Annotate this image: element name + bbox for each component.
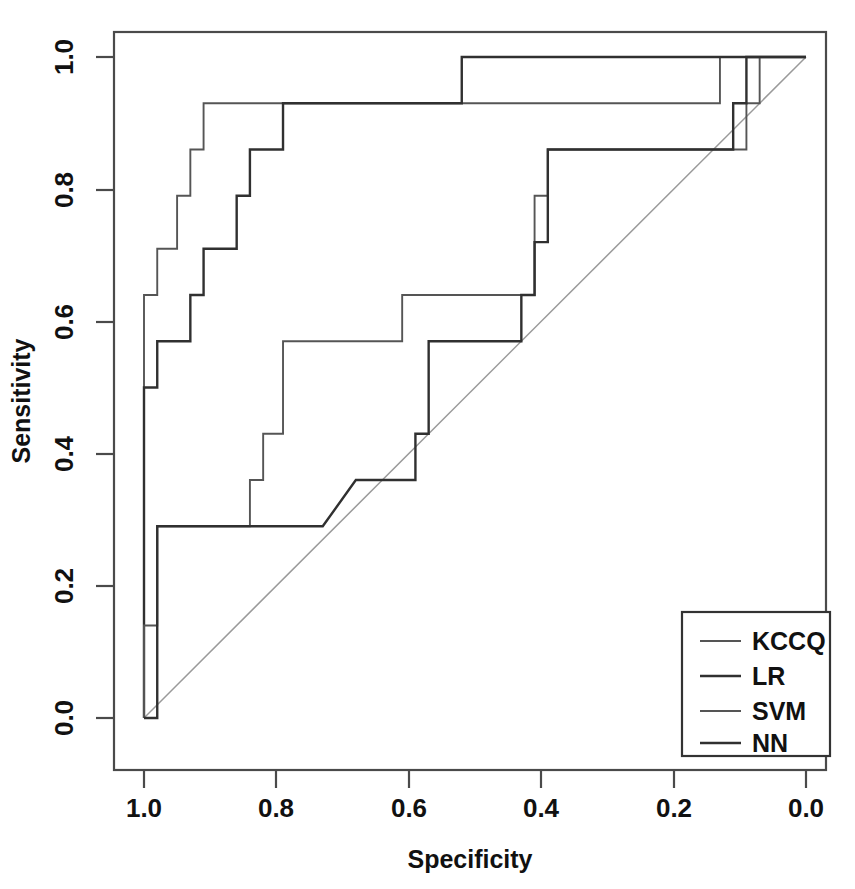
y-axis-ticks: [96, 57, 114, 718]
y-tick-label: 1.0: [49, 39, 79, 75]
y-tick-label: 0.2: [49, 568, 79, 604]
x-tick-label: 0.0: [788, 793, 824, 823]
legend-label-lr: LR: [752, 662, 785, 690]
x-axis-tick-labels: 1.0 0.8 0.6 0.4 0.2 0.0: [126, 793, 824, 823]
legend-label-svm: SVM: [752, 697, 806, 725]
x-tick-label: 1.0: [126, 793, 162, 823]
y-tick-label: 0.0: [49, 700, 79, 736]
y-axis-title: Sensitivity: [7, 338, 35, 463]
y-axis-tick-labels: 0.0 0.2 0.4 0.6 0.8 1.0: [49, 39, 79, 736]
roc-chart-svg: 1.0 0.8 0.6 0.4 0.2 0.0 0.0 0.2 0.4 0.6 …: [0, 0, 855, 889]
y-tick-label: 0.6: [49, 304, 79, 340]
y-tick-label: 0.8: [49, 172, 79, 208]
x-tick-label: 0.2: [656, 793, 692, 823]
x-axis-title: Specificity: [407, 845, 532, 873]
legend-label-kccq: KCCQ: [752, 627, 826, 655]
roc-figure: 1.0 0.8 0.6 0.4 0.2 0.0 0.0 0.2 0.4 0.6 …: [0, 0, 855, 889]
x-axis-ticks: [144, 770, 806, 788]
x-tick-label: 0.4: [523, 793, 560, 823]
x-tick-label: 0.8: [258, 793, 294, 823]
legend-label-nn: NN: [752, 729, 788, 757]
y-tick-label: 0.4: [49, 435, 79, 472]
x-tick-label: 0.6: [391, 793, 427, 823]
legend: KCCQ LR SVM NN: [682, 612, 830, 757]
